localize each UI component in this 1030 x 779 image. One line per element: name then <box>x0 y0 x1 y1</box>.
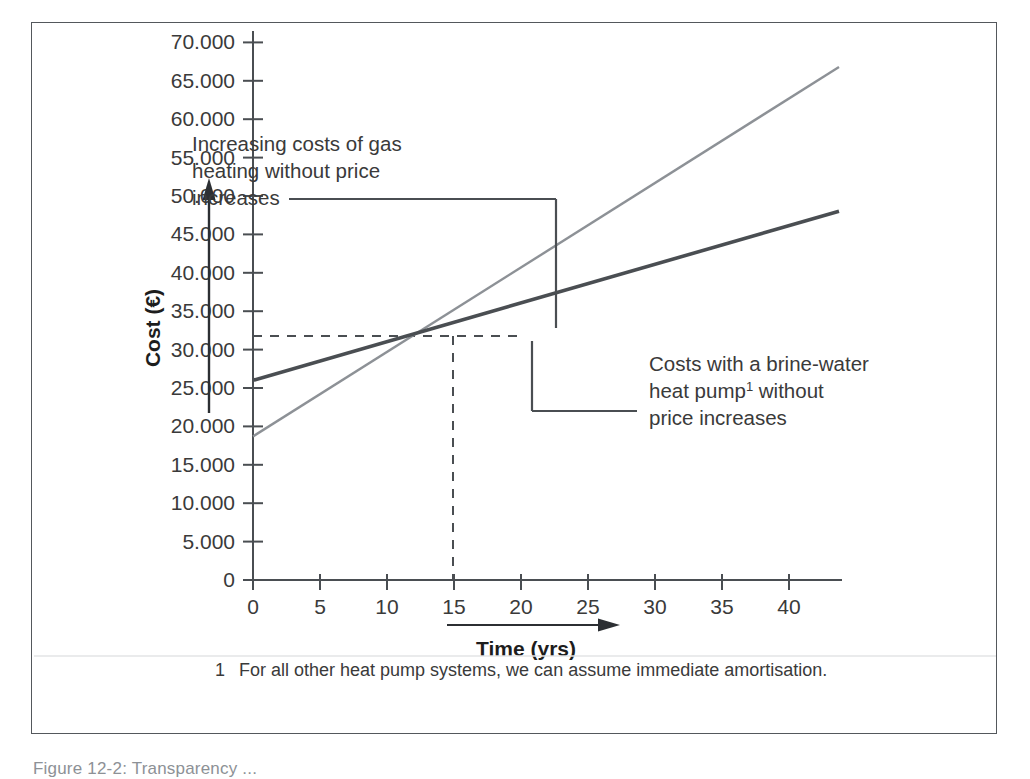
footnote-marker: 1 <box>215 660 225 680</box>
y-tick-label: 10.000 <box>171 491 235 514</box>
y-tick-label: 70.000 <box>171 30 235 53</box>
heatpump-annotation: Costs with a brine-water heat pump1 with… <box>532 341 869 429</box>
y-tick-label: 5.000 <box>182 530 235 553</box>
y-tick-label: 65.000 <box>171 69 235 92</box>
heatpump-annotation-line-3: price increases <box>649 406 787 429</box>
heatpump-annotation-superscript: 1 <box>746 379 753 394</box>
x-tick-label: 30 <box>643 595 666 618</box>
y-tick-label: 20.000 <box>171 414 235 437</box>
heatpump-annotation-line-1: Costs with a brine-water <box>649 352 869 375</box>
y-tick-label: 40.000 <box>171 261 235 284</box>
gas-annotation-line-2: heating without price <box>192 159 380 182</box>
x-tick-label: 35 <box>710 595 733 618</box>
y-tick-label: 15.000 <box>171 453 235 476</box>
x-axis-tick-labels: 0 5 10 15 20 25 30 35 40 <box>247 595 801 618</box>
y-tick-label: 45.000 <box>171 222 235 245</box>
x-axis-arrow-icon <box>447 619 620 632</box>
heatpump-annotation-line-2: heat pump1 without <box>649 379 824 402</box>
y-tick-label: 0 <box>223 568 235 591</box>
heatpump-annotation-line-2-main: heat pump <box>649 379 746 402</box>
x-tick-label: 15 <box>442 595 465 618</box>
figure-frame: 0 5.000 10.000 15.000 20.000 25.000 30.0… <box>31 22 997 734</box>
figure-caption: Figure 12-2: Transparency ... <box>33 759 257 779</box>
gas-annotation: Increasing costs of gas heating without … <box>192 132 556 328</box>
y-axis-tick-labels: 0 5.000 10.000 15.000 20.000 25.000 30.0… <box>171 30 235 591</box>
y-tick-label: 30.000 <box>171 338 235 361</box>
x-tick-label: 10 <box>375 595 398 618</box>
footnote-text: For all other heat pump systems, we can … <box>239 660 827 680</box>
x-tick-label: 5 <box>314 595 326 618</box>
heatpump-annotation-line-2-suffix: without <box>753 379 824 402</box>
y-tick-label: 35.000 <box>171 299 235 322</box>
x-tick-label: 25 <box>576 595 599 618</box>
y-tick-label: 25.000 <box>171 376 235 399</box>
gas-annotation-line-3: increases <box>192 186 280 209</box>
x-tick-label: 0 <box>247 595 259 618</box>
cost-comparison-chart: 0 5.000 10.000 15.000 20.000 25.000 30.0… <box>32 23 998 735</box>
footnote: 1 For all other heat pump systems, we ca… <box>215 660 827 680</box>
y-tick-label: 60.000 <box>171 107 235 130</box>
x-tick-label: 40 <box>777 595 800 618</box>
y-axis-title: Cost (€) <box>141 289 164 367</box>
gas-annotation-line-1: Increasing costs of gas <box>192 132 402 155</box>
x-tick-label: 20 <box>509 595 532 618</box>
